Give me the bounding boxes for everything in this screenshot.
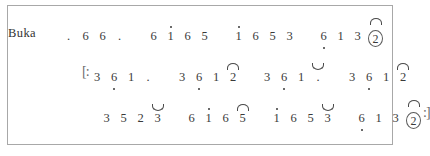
note: 6 (145, 18, 162, 48)
note: 1 (268, 100, 285, 130)
note: . (310, 59, 327, 89)
note-glyph: 1 (205, 112, 211, 130)
arc-accent-icon (370, 18, 382, 25)
note: 6 (353, 100, 370, 130)
note-glyph: 1 (128, 71, 134, 89)
note-glyph: 2 (137, 112, 143, 130)
note: 6 (361, 59, 378, 89)
note-glyph: 6 (222, 112, 228, 130)
breve-accent-icon (152, 104, 164, 111)
note-glyph: 5 (201, 30, 207, 48)
note-glyph: 1 (273, 112, 279, 130)
note: 5 (115, 100, 132, 130)
note-glyph: 6 (281, 71, 287, 89)
note-glyph: 2 (400, 71, 406, 89)
note-glyph: 6 (290, 112, 296, 130)
note-glyph: 6 (82, 30, 88, 48)
gatra: 3523 (98, 100, 166, 130)
note-glyph: 6 (188, 112, 194, 130)
note: 6 (315, 18, 332, 48)
gatra: 6165 (145, 18, 213, 48)
note-glyph: 1 (375, 112, 381, 130)
arc-accent-icon (237, 104, 249, 111)
rest-glyph: . (317, 71, 320, 89)
note-glyph: 3 (349, 71, 355, 89)
note: 1 (208, 59, 225, 89)
note: 2 (132, 100, 149, 130)
note: 1 (162, 18, 179, 48)
note: 6 (247, 18, 264, 48)
note: 1 (200, 100, 217, 130)
rest-glyph: . (67, 30, 70, 48)
note: 5 (196, 18, 213, 48)
gatra: 3612 (344, 59, 412, 89)
gong-circle-icon: 2 (406, 112, 421, 129)
rest-glyph: . (118, 30, 121, 48)
note: 1 (123, 59, 140, 89)
note-glyph: 5 (307, 112, 313, 130)
note-glyph: 6 (366, 71, 372, 89)
note-glyph: 3 (94, 71, 100, 89)
note-glyph: 6 (111, 71, 117, 89)
gong-note: 2 (366, 18, 385, 48)
note-glyph: 1 (167, 30, 173, 48)
note: . (111, 18, 128, 48)
note-glyph: 6 (99, 30, 105, 48)
arc-accent-icon (227, 63, 239, 70)
note: . (140, 59, 157, 89)
note: 1 (332, 18, 349, 48)
breve-accent-icon (312, 63, 324, 70)
row-label-buka: Buka (8, 26, 60, 41)
note: 3 (387, 100, 404, 130)
note-glyph: 6 (320, 30, 326, 48)
breve-accent-icon (322, 104, 334, 111)
note: 6 (179, 18, 196, 48)
note-glyph: 6 (358, 112, 364, 130)
note-glyph: 3 (354, 30, 360, 48)
note-glyph: 2 (373, 33, 379, 45)
note: 3 (98, 100, 115, 130)
note: 3 (174, 59, 191, 89)
notation-frame: Buka.66.616516536132[:361.3612361.361235… (7, 5, 393, 145)
note-glyph: 6 (184, 30, 190, 48)
note: 3 (259, 59, 276, 89)
gong-note: 2 (404, 100, 423, 130)
note: 3 (149, 100, 166, 130)
gatra: .66. (60, 18, 128, 48)
cipher-notation-score: Buka.66.616516536132[:361.3612361.361235… (8, 6, 392, 144)
note: 6 (276, 59, 293, 89)
gong-circle-icon: 2 (368, 30, 383, 47)
note: 5 (264, 18, 281, 48)
gatra: 6165 (183, 100, 251, 130)
note: 1 (370, 100, 387, 130)
note: 1 (293, 59, 310, 89)
note: 2 (395, 59, 412, 89)
note-glyph: 1 (235, 30, 241, 48)
notation-row-3: 3523616516536132:] (8, 95, 430, 135)
note-glyph: 3 (103, 112, 109, 130)
note: 6 (77, 18, 94, 48)
note: 3 (344, 59, 361, 89)
note: . (60, 18, 77, 48)
note-glyph: 1 (298, 71, 304, 89)
notation-row-2: [:361.3612361.3612 (8, 54, 414, 94)
note-glyph: 3 (179, 71, 185, 89)
gatra-group-list: 3523616516536132 (98, 100, 423, 130)
note-glyph: 5 (239, 112, 245, 130)
gatra: 6132 (353, 100, 423, 130)
note: 6 (285, 100, 302, 130)
note: 5 (302, 100, 319, 130)
note: 1 (230, 18, 247, 48)
note-glyph: 5 (269, 30, 275, 48)
note: 1 (378, 59, 395, 89)
arc-accent-icon (397, 63, 409, 70)
note-glyph: 2 (411, 115, 417, 127)
note-glyph: 1 (337, 30, 343, 48)
note-glyph: 5 (120, 112, 126, 130)
note: 5 (234, 100, 251, 130)
notation-row-1: Buka.66.616516536132 (8, 13, 392, 53)
note-glyph: 2 (230, 71, 236, 89)
rest-glyph: . (147, 71, 150, 89)
note: 6 (94, 18, 111, 48)
gatra-group-list: 361.3612361.3612 (89, 59, 412, 89)
